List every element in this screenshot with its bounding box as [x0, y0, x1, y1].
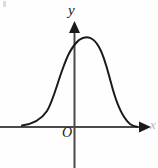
y-axis-label: y	[68, 3, 75, 18]
math-figure: y O x	[0, 0, 158, 168]
origin-label: O	[62, 126, 72, 140]
figure-canvas	[0, 0, 158, 168]
y-axis-arrowhead	[69, 21, 80, 33]
x-axis-label: x	[150, 118, 156, 131]
bell-curve	[22, 37, 137, 127]
